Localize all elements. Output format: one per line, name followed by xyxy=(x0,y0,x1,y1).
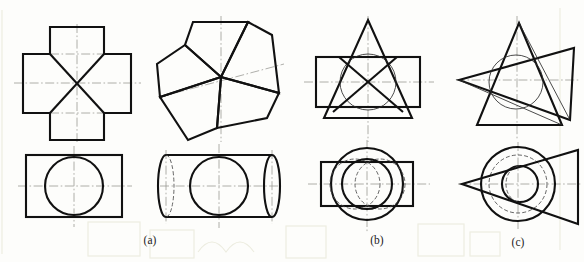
group-b xyxy=(304,16,434,232)
triangle-upright xyxy=(477,23,562,125)
pinwheel-blade-1 xyxy=(185,22,248,77)
caption-b: (b) xyxy=(370,234,384,247)
cylinder-with-circle-top-view xyxy=(158,144,280,228)
pinwheel-front-view xyxy=(157,16,284,142)
caption-a: (a) xyxy=(144,234,157,247)
center-line-tilted xyxy=(160,64,284,97)
triangle-circles-top-view xyxy=(458,142,582,230)
triangle-rectangle-front-view xyxy=(304,16,434,142)
x-diagonal-1 xyxy=(339,57,403,112)
group-a xyxy=(14,16,284,228)
circle-rectangle-ellipses-top-view xyxy=(308,140,430,232)
pinwheel-blade-5 xyxy=(157,45,221,97)
figure-canvas: (a) (b) (c) xyxy=(0,0,584,262)
background-watermark xyxy=(2,8,560,258)
pinwheel-blade-3 xyxy=(217,77,279,128)
technical-drawing-svg: (a) (b) (c) xyxy=(0,0,584,262)
pinwheel-blade-2 xyxy=(221,22,279,93)
caption-c: (c) xyxy=(512,236,525,249)
x-diagonal-2 xyxy=(333,57,397,112)
cross-with-x-front-view xyxy=(14,24,141,142)
two-triangles-front-view xyxy=(456,16,580,140)
group-c xyxy=(456,16,582,230)
rectangle-with-circle-top-view xyxy=(18,146,132,227)
